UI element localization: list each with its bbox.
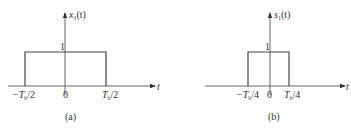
signal-label: s1(t) [274,9,290,21]
time-label: t [157,81,160,92]
tick-left: −Tb/2 [12,89,35,101]
rectangular-pulse [248,52,289,86]
panel-a: x1(t) 1 t −Tb/2 0 Tb/2 (a) [8,9,160,123]
amplitude-label: 1 [265,41,270,52]
tick-zero: 0 [267,89,272,100]
caption-b: (b) [268,111,280,123]
signal-label: x1(t) [68,9,86,21]
tick-right: Tb/4 [284,89,300,101]
amplitude-label: 1 [60,41,65,52]
caption-a: (a) [65,111,76,123]
tick-left: −Tb/4 [236,89,259,101]
tick-zero: 0 [63,89,68,100]
panel-b: s1(t) 1 t −Tb/4 0 Tb/4 (b) [205,9,349,123]
pulse-diagrams: x1(t) 1 t −Tb/2 0 Tb/2 (a) s1(t) 1 t −Tb… [0,0,351,129]
tick-right: Tb/2 [102,89,118,101]
time-label: t [346,81,349,92]
